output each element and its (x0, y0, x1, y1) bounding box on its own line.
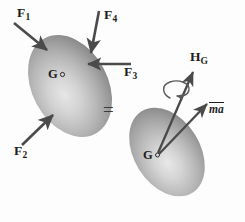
force-label-f2-base: F (14, 143, 22, 158)
center-of-mass-label-left: G (48, 68, 58, 81)
center-of-mass-label-left-text: G (48, 67, 58, 81)
force-label-f1-sub: 1 (25, 12, 30, 22)
force-label-f1-base: F (17, 5, 25, 20)
force-label-f4-sub: 4 (112, 14, 117, 24)
force-label-f2: F2 (14, 144, 27, 160)
figure-container: F1 F4 F3 F2 G G HG ma = (0, 0, 245, 222)
force-arrow-f2 (22, 115, 53, 145)
linear-momentum-label-ma: ma (209, 102, 224, 116)
force-label-f1: F1 (17, 6, 30, 22)
force-label-f2-sub: 2 (22, 150, 27, 160)
equals-sign-text: = (103, 99, 114, 120)
center-of-mass-label-right: G (143, 149, 153, 162)
force-arrow-f1 (14, 23, 47, 50)
force-label-f4: F4 (104, 8, 117, 24)
angular-momentum-label-base: H (190, 49, 201, 64)
kinetic-diagram-group (114, 94, 221, 210)
rigid-body-ellipse-left (11, 20, 129, 151)
rigid-body-ellipse-right (114, 94, 221, 210)
force-arrow-f4 (91, 11, 99, 53)
center-of-mass-label-right-text: G (143, 148, 153, 162)
angular-momentum-label-hg: HG (190, 50, 208, 66)
angular-momentum-label-sub: G (201, 56, 208, 66)
force-label-f3-sub: 3 (132, 71, 137, 81)
equals-sign: = (103, 100, 114, 119)
linear-momentum-label-text: ma (209, 103, 224, 115)
force-label-f4-base: F (104, 7, 112, 22)
free-body-diagram-group (11, 20, 129, 151)
force-label-f3: F3 (124, 65, 137, 81)
force-label-f3-base: F (124, 64, 132, 79)
